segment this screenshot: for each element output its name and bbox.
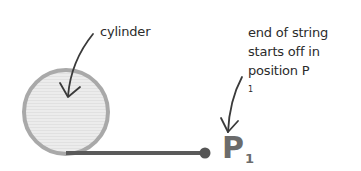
annotation-line-1: end of string: [248, 23, 328, 42]
string-end-dot: [200, 148, 211, 159]
annotation-line-2: starts off in: [248, 42, 328, 61]
annotation-line-3-text: position P: [248, 61, 328, 80]
point-p1-label: P1: [222, 132, 254, 171]
annotation-subscript: 1: [248, 80, 328, 99]
point-subscript: 1: [245, 151, 254, 166]
cylinder-label: cylinder: [100, 22, 150, 41]
cylinder-shape: [24, 70, 108, 154]
string-end-annotation: end of string starts off in position P1: [248, 23, 328, 99]
diagram-canvas: cylinder end of string starts off in pos…: [0, 0, 361, 171]
annotation-line-3: position P1: [248, 61, 328, 99]
point-letter: P: [222, 130, 244, 165]
point-arrow-icon: [221, 77, 242, 132]
